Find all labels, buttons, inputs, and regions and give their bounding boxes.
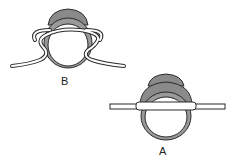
panel-a-label: A [159, 145, 167, 157]
diagram-canvas: B A [0, 0, 235, 162]
panel-b-label: B [61, 75, 68, 87]
panel-b: B [12, 9, 124, 87]
panel-a: A [110, 74, 225, 157]
cord-a-through [136, 102, 196, 110]
